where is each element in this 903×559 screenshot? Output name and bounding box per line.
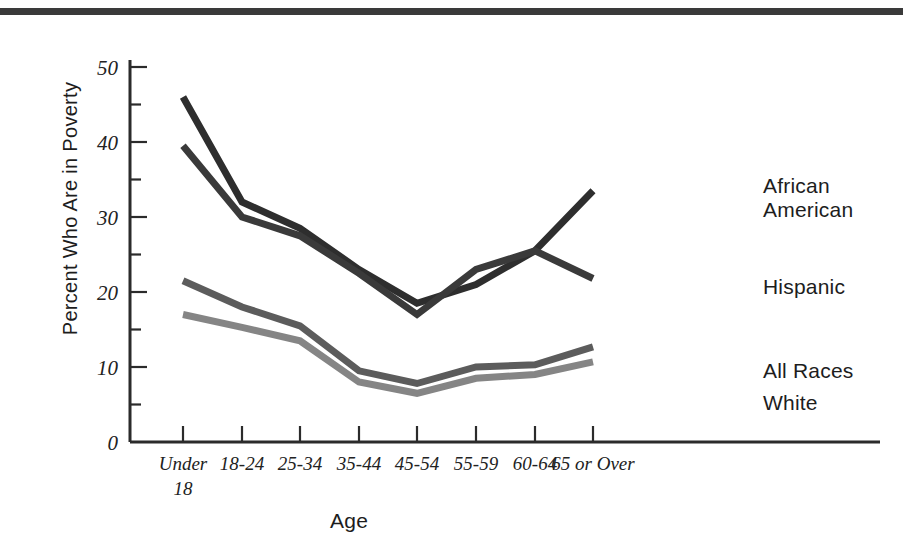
chart-plot-area: 01020304050 Under1818-2425-3435-4445-545… (0, 22, 903, 559)
x-tick-label-0: 18 (174, 478, 194, 499)
legend-label-all-races: All Races (763, 359, 854, 383)
series-line-african-american (183, 97, 593, 303)
x-axis-tick-labels: Under1818-2425-3435-4445-5455-5960-6465 … (159, 453, 636, 499)
y-axis-title: Percent Who Are in Poverty (59, 59, 82, 359)
series-line-white (183, 315, 593, 394)
legend-label-hispanic: Hispanic (763, 275, 845, 299)
x-tick-label-0: Under (159, 453, 208, 474)
y-tick-label-50: 50 (97, 56, 119, 80)
x-tick-label-4: 45-54 (395, 453, 440, 474)
y-tick-label-10: 10 (97, 356, 119, 380)
poverty-by-age-chart-figure: 01020304050 Under1818-2425-3435-4445-545… (0, 0, 903, 559)
legend-label-white: White (763, 391, 818, 415)
x-tick-label-2: 25-34 (278, 453, 323, 474)
y-tick-label-40: 40 (97, 131, 119, 155)
legend-label-african-american: African American (763, 174, 853, 221)
x-axis-ticks (183, 426, 593, 442)
x-tick-label-1: 18-24 (220, 453, 265, 474)
y-tick-label-20: 20 (97, 281, 119, 305)
y-axis-tick-labels: 01020304050 (96, 56, 119, 455)
x-tick-label-3: 35-44 (336, 453, 382, 474)
y-tick-label-30: 30 (96, 206, 119, 230)
y-axis-major-ticks (130, 67, 147, 367)
data-series-group (183, 97, 593, 393)
y-tick-label-0: 0 (108, 431, 119, 455)
x-tick-label-7: 65 or Over (551, 453, 635, 474)
x-axis-title: Age (330, 509, 368, 533)
page-top-rule (0, 8, 903, 15)
x-tick-label-5: 55-59 (454, 453, 499, 474)
y-axis-minor-ticks (130, 105, 141, 405)
